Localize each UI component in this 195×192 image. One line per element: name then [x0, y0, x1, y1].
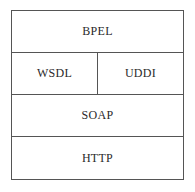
http-label: HTTP	[12, 137, 183, 179]
layer-wsdl-uddi: WSDL UDDI	[12, 53, 183, 95]
layer-soap: SOAP	[12, 95, 183, 137]
layer-bpel: BPEL	[12, 11, 183, 53]
protocol-stack-diagram: BPEL WSDL UDDI SOAP HTTP	[11, 10, 184, 180]
layer-http: HTTP	[12, 137, 183, 179]
soap-label: SOAP	[12, 95, 183, 136]
bpel-label: BPEL	[12, 11, 183, 52]
wsdl-label: WSDL	[12, 53, 98, 94]
uddi-label: UDDI	[98, 53, 183, 94]
